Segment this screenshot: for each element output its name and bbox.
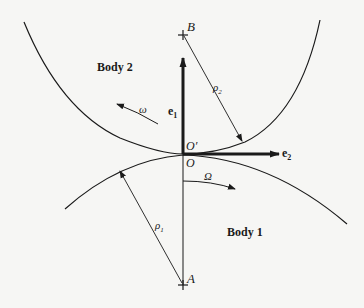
contact-point-o-label: O — [186, 156, 195, 170]
center-a-label: A — [186, 271, 195, 286]
rho2-label: ρ2 — [212, 81, 222, 96]
big-omega-label: Ω — [204, 170, 212, 182]
contact-diagram: Body 2 Body 1 B A O′ O e1 e2 ρ2 ρ1 ω Ω — [0, 0, 364, 308]
big-omega-rotation-arrow — [183, 181, 235, 189]
rho1-label: ρ1 — [154, 219, 164, 234]
center-b-label: B — [187, 19, 195, 34]
e2-label: e2 — [282, 146, 291, 162]
body1-label: Body 1 — [227, 225, 263, 239]
body2-surface-curve — [24, 20, 320, 154]
contact-point-o-prime-label: O′ — [186, 139, 198, 153]
omega-rotation-arrow — [117, 104, 158, 124]
body2-label: Body 2 — [97, 60, 133, 74]
omega-label: ω — [139, 103, 147, 115]
e1-label: e1 — [168, 104, 177, 120]
rho1-radius-arrow — [120, 171, 182, 283]
body1-surface-curve — [65, 155, 347, 224]
